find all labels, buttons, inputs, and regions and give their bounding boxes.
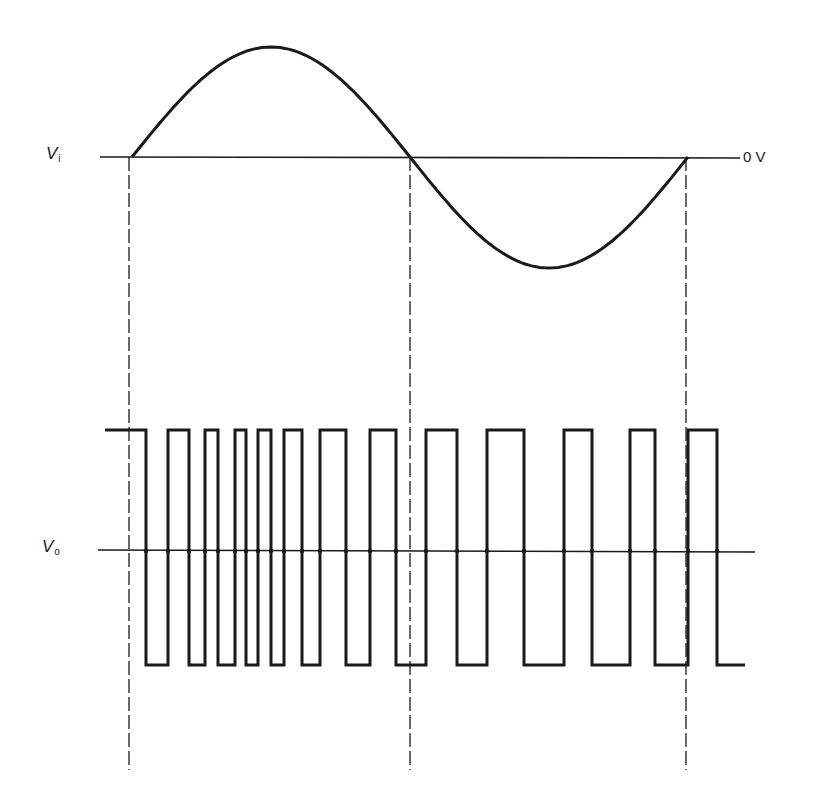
vo-label-main: V (42, 537, 53, 556)
crossing-dot (653, 549, 657, 553)
crossing-dot (628, 549, 632, 553)
crossing-dot (256, 549, 260, 553)
crossing-dot (244, 549, 248, 553)
crossing-dot (282, 549, 286, 553)
vi-zero-axis (100, 157, 740, 158)
waveform-diagram (0, 0, 817, 802)
crossing-dot (166, 549, 170, 553)
crossing-dot (318, 549, 322, 553)
vi-label-main: V (46, 144, 57, 163)
crossing-dot (187, 549, 191, 553)
crossing-dot (368, 549, 372, 553)
crossing-dot (216, 549, 220, 553)
vo-square-wave (105, 430, 745, 665)
vi-label-sub: i (58, 153, 60, 164)
vo-label-sub: o (54, 546, 60, 557)
crossing-dot (686, 549, 690, 553)
crossing-dot (394, 549, 398, 553)
crossing-dot (203, 549, 207, 553)
crossing-dot (485, 549, 489, 553)
crossing-dot (424, 549, 428, 553)
crossing-dot (144, 549, 148, 553)
vo-label: Vo (42, 537, 60, 557)
crossing-dot (455, 549, 459, 553)
crossing-dot (269, 549, 273, 553)
vi-label: Vi (46, 144, 61, 164)
crossing-dot (344, 549, 348, 553)
zero-volt-label: 0 V (743, 148, 766, 165)
crossing-dot (233, 549, 237, 553)
crossing-dot (562, 549, 566, 553)
crossing-dot (300, 549, 304, 553)
crossing-dot (590, 549, 594, 553)
crossing-dot (522, 549, 526, 553)
crossing-dot (715, 549, 719, 553)
